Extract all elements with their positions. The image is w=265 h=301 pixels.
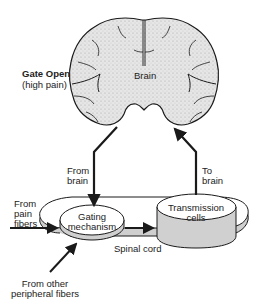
peripheral-label-2: peripheral fibers: [0, 289, 90, 299]
gate-control-diagram: Gate Open (high pain) Brain From brain T…: [0, 0, 265, 301]
gating-label-2: mechanism: [62, 222, 122, 232]
brain-label: Brain: [134, 71, 156, 81]
from-brain-label-2: brain: [67, 176, 88, 186]
to-brain-arrow: [175, 129, 196, 195]
transmission-label-2: cells: [160, 213, 232, 223]
diagram-graphics: [0, 0, 265, 301]
spinal-cord-label: Spinal cord: [114, 244, 162, 254]
gate-state-subtitle: (high pain): [22, 80, 67, 90]
gate-state-title: Gate Open: [22, 69, 70, 79]
pain-fibers-label-3: fibers: [14, 219, 37, 229]
from-brain-arrow: [94, 127, 117, 205]
peripheral-fibers-arrow: [50, 244, 76, 272]
to-brain-label-2: brain: [202, 176, 223, 186]
